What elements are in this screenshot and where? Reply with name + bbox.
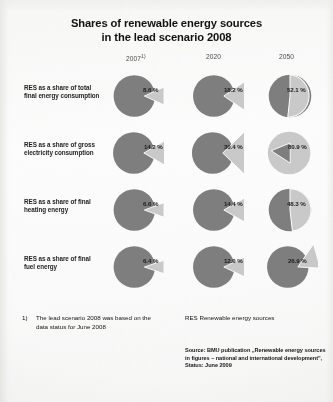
- pie-svg: [260, 125, 316, 181]
- pie-value-r3-2050: 48.3 %: [287, 200, 306, 207]
- pie-value-r2-2020: 30.4 %: [224, 143, 243, 150]
- pie-chart-r4-2050: [262, 239, 318, 295]
- pie-value-r4-2050: 26.9 %: [288, 257, 307, 264]
- pie-chart-r3-2050: [262, 182, 318, 238]
- pie-svg: [262, 239, 318, 295]
- paper-edge-left: [0, 0, 9, 402]
- pie-svg: [188, 125, 244, 181]
- row-label-line1: RES as a share of final: [24, 198, 91, 205]
- pie-chart-r2-2050: [260, 125, 316, 181]
- row-label-line1: RES as a share of gross: [24, 141, 95, 148]
- pie-svg: [188, 68, 244, 124]
- pie-value-r1-2007: 8.6 %: [143, 86, 158, 93]
- row-label-final-heating-energy: RES as a share of final heating energy: [24, 198, 102, 215]
- row-label-total-final-energy: RES as a share of total final energy con…: [24, 84, 102, 101]
- pie-res-slice-exploded: [223, 129, 244, 176]
- page-title-line2: in the lead scenario 2008: [0, 30, 333, 44]
- column-header-2050-label: 2050: [279, 53, 294, 60]
- column-header-2050: 2050: [279, 53, 294, 60]
- pie-chart-r4-2007: [108, 239, 164, 295]
- column-header-2007: 20071): [126, 53, 146, 62]
- row-label-final-fuel-energy: RES as a share of final fuel energy: [24, 255, 102, 272]
- poster-page: Shares of renewable energy sources in th…: [0, 0, 333, 402]
- row-label-line1: RES as a share of final: [24, 255, 91, 262]
- pie-svg: [108, 182, 164, 238]
- row-label-line2: heating energy: [24, 206, 68, 213]
- pie-chart-r2-2020: [188, 125, 244, 181]
- row-label-gross-electricity: RES as a share of gross electricity cons…: [24, 141, 102, 158]
- column-header-2007-label: 2007: [126, 55, 141, 62]
- footnote-text: The lead scenario 2008 was based on the …: [36, 314, 156, 331]
- pie-res-slice: [290, 189, 311, 231]
- pie-svg: [108, 125, 164, 181]
- pie-chart-r4-2020: [188, 239, 244, 295]
- source-note: Source: BMU publication „Renewable energ…: [185, 347, 330, 370]
- page-title-line1: Shares of renewable energy sources: [71, 17, 262, 29]
- pie-chart-r1-2007: [108, 68, 164, 124]
- pie-svg: [262, 68, 318, 124]
- legend-abbreviation-note: RES Renewable energy sources: [185, 314, 325, 323]
- pie-value-r2-2007: 14.2 %: [144, 143, 163, 150]
- pie-chart-r2-2007: [108, 125, 164, 181]
- page-title: Shares of renewable energy sources in th…: [0, 16, 333, 44]
- pie-value-r1-2020: 18.2 %: [224, 86, 243, 93]
- row-label-line1: RES as a share of total: [24, 84, 91, 91]
- row-label-line2: final energy consumption: [24, 92, 99, 99]
- pie-svg: [108, 68, 164, 124]
- footnote-marker: 1): [22, 314, 28, 321]
- paper-edge-top: [0, 0, 333, 12]
- pie-svg: [262, 182, 318, 238]
- pie-value-r3-2007: 6.6 %: [143, 200, 158, 207]
- pie-value-r3-2020: 14.4 %: [224, 200, 243, 207]
- pie-value-r2-2050: 80.9 %: [288, 143, 307, 150]
- pie-value-r4-2020: 12.0 %: [224, 257, 243, 264]
- column-header-2020: 2020: [206, 53, 221, 60]
- pie-svg: [188, 182, 244, 238]
- paper-edge-right: [326, 0, 333, 402]
- column-header-2007-footnote-marker: 1): [141, 53, 146, 59]
- pie-chart-r3-2007: [108, 182, 164, 238]
- column-header-2020-label: 2020: [206, 53, 221, 60]
- row-label-line2: electricity consumption: [24, 149, 94, 156]
- pie-svg: [108, 239, 164, 295]
- row-label-line2: fuel energy: [24, 263, 57, 270]
- pie-svg: [188, 239, 244, 295]
- pie-res-slice: [288, 75, 309, 117]
- pie-chart-r1-2050: [262, 68, 318, 124]
- pie-chart-r3-2020: [188, 182, 244, 238]
- pie-value-r1-2050: 52.1 %: [287, 86, 306, 93]
- pie-chart-r1-2020: [188, 68, 244, 124]
- pie-value-r4-2007: 6.4 %: [143, 257, 158, 264]
